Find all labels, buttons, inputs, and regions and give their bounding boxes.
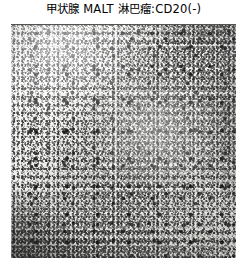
micrograph-tonal-shading <box>11 24 236 258</box>
micrograph-nuclei-stipple-1 <box>11 24 236 258</box>
micrograph-print-banding <box>11 24 236 258</box>
figure-caption: 甲状腺 MALT 淋巴瘤:CD20(-) <box>0 2 247 18</box>
micrograph-vignette <box>11 24 236 258</box>
micrograph-dense-infiltrate <box>11 24 236 258</box>
micrograph-nuclei-clusters <box>11 24 236 258</box>
figure-root: 甲状腺 MALT 淋巴瘤:CD20(-) <box>0 0 247 269</box>
photomicrograph <box>11 24 236 258</box>
micrograph-base-tone <box>11 24 236 258</box>
micrograph-nuclei-stipple-2 <box>11 24 236 258</box>
